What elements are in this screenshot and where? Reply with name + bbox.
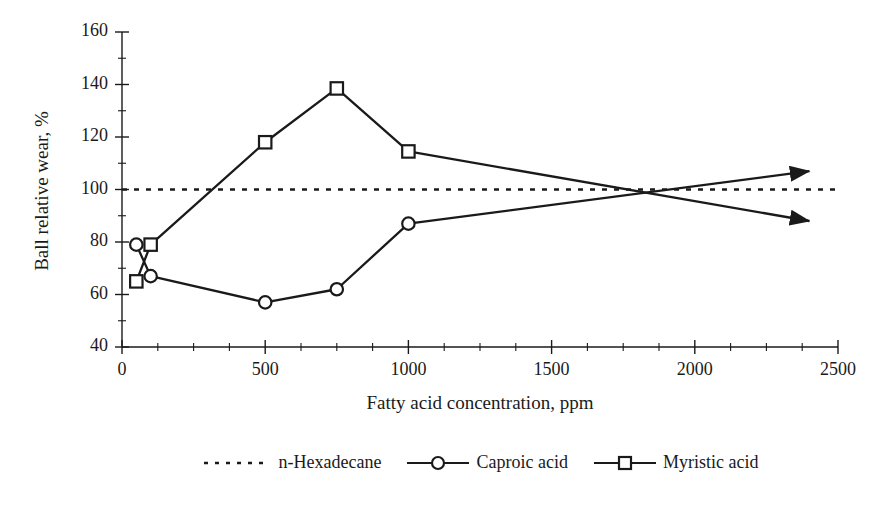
extrapolation-arrow-2	[408, 151, 809, 221]
marker-square	[259, 136, 271, 148]
axes	[115, 32, 838, 354]
marker-circle	[259, 296, 271, 308]
legend-item-myristic-acid[interactable]: Myristic acid	[594, 452, 758, 473]
y-tick-label: 140	[62, 73, 108, 94]
x-tick-label: 2500	[803, 359, 873, 380]
legend-item-n-hexadecane[interactable]: n-Hexadecane	[202, 452, 382, 473]
marker-circle	[130, 238, 142, 250]
marker-circle	[331, 283, 343, 295]
data-series	[122, 82, 838, 308]
y-tick-label: 60	[62, 283, 108, 304]
legend-marker-circle	[432, 457, 444, 469]
legend-item-caproic-acid[interactable]: Caproic acid	[407, 452, 567, 473]
y-tick-label: 80	[62, 230, 108, 251]
series-line-1	[136, 224, 408, 303]
x-tick-label: 0	[87, 359, 157, 380]
y-tick-label: 100	[62, 178, 108, 199]
chart-figure: Ball relative wear, % Fatty acid concent…	[0, 0, 885, 512]
extrapolation-arrow-1	[408, 171, 809, 224]
series-line-2	[136, 88, 408, 281]
legend-swatch-circle	[407, 454, 469, 472]
legend-label: Myristic acid	[663, 452, 758, 473]
marker-square	[331, 82, 343, 94]
chart-legend: n-HexadecaneCaproic acidMyristic acid	[122, 452, 838, 473]
y-tick-label: 40	[62, 335, 108, 356]
plot-canvas	[0, 0, 885, 512]
y-tick-label: 120	[62, 125, 108, 146]
legend-marker-square	[619, 457, 631, 469]
series-caproic-acid	[130, 171, 809, 308]
legend-swatch-dotted-line	[202, 454, 272, 472]
x-tick-label: 2000	[660, 359, 730, 380]
x-tick-label: 1000	[373, 359, 443, 380]
x-tick-label: 500	[230, 359, 300, 380]
marker-circle	[144, 270, 156, 282]
legend-swatch-square	[594, 454, 656, 472]
marker-square	[402, 145, 414, 157]
legend-label: n-Hexadecane	[279, 452, 382, 473]
legend-label: Caproic acid	[476, 452, 567, 473]
y-axis-title: Ball relative wear, %	[31, 41, 53, 341]
marker-square	[130, 275, 142, 287]
x-tick-label: 1500	[517, 359, 587, 380]
x-axis-title: Fatty acid concentration, ppm	[122, 392, 838, 414]
marker-circle	[402, 217, 414, 229]
y-tick-label: 160	[62, 20, 108, 41]
marker-square	[144, 238, 156, 250]
